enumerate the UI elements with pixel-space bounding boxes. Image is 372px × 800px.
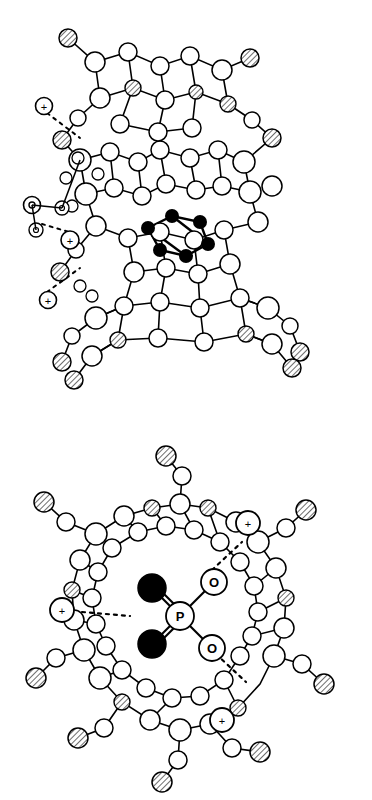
- charge-plus-top-right: +: [245, 518, 251, 530]
- amine-connection-lines-top: [32, 160, 80, 230]
- label-o-left-upper: O: [147, 581, 157, 596]
- label-o-bottom: O: [147, 637, 157, 652]
- charge-plus-bottom-right: +: [219, 715, 225, 727]
- charge-plus-3: +: [45, 295, 51, 307]
- charge-plus-left: +: [59, 605, 65, 617]
- top-panel-svg: + + +: [0, 0, 372, 430]
- molecular-figure: + + +: [0, 0, 372, 800]
- hydrogen-bonds-bottom: [82, 542, 246, 682]
- carbon-atoms-top: [64, 43, 298, 366]
- label-p-center: P: [176, 609, 185, 624]
- label-o-right-lower: O: [207, 641, 217, 656]
- top-panel-side-view: + + +: [0, 0, 372, 430]
- label-o-top-right: O: [209, 575, 219, 590]
- bottom-panel-top-view: O O O O P + + +: [0, 430, 372, 800]
- bottom-panel-svg: O O O O P + + +: [0, 430, 372, 800]
- charge-plus-2: +: [67, 235, 73, 247]
- charge-plus-1: +: [41, 101, 47, 113]
